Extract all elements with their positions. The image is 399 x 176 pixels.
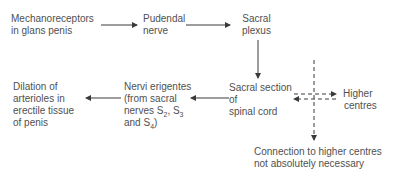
node-mechanoreceptors: Mechanoreceptors in glans penis xyxy=(11,13,94,37)
node-nervi-erigentes: Nervi erigentes (from sacral nerves S2, … xyxy=(124,81,191,129)
node-sacral-section: Sacral section of spinal cord xyxy=(229,82,292,118)
note-connection: Connection to higher centres not absolut… xyxy=(254,146,382,170)
node-higher-centres: Higher centres xyxy=(343,88,377,112)
node-dilation: Dilation of arterioles in erectile tissu… xyxy=(13,81,74,129)
node-sacral-plexus: Sacral plexus xyxy=(242,13,271,37)
node-pudendal-nerve: Pudendal nerve xyxy=(143,13,185,37)
